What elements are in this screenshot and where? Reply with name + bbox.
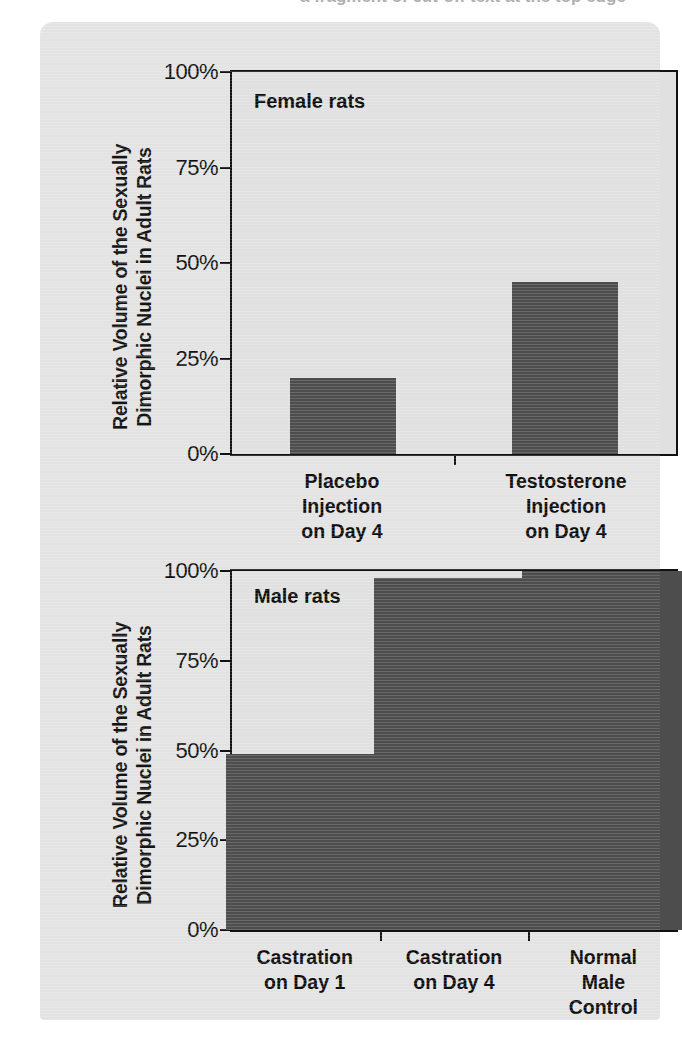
- y-axis-title-line-1: Relative Volume of the Sexually: [108, 622, 132, 908]
- y-axis-title-top-line1: Relative Volume of the SexuallyDimorphic…: [108, 144, 156, 430]
- x-label-0-line-0: Castration: [230, 945, 379, 970]
- x-label-1-line-1: Injection: [454, 494, 678, 519]
- x-label-1-line-0: Testosterone: [454, 469, 678, 494]
- chart-male-rats: Male rats 0%25%50%75%100%: [230, 569, 678, 932]
- x-label-0-line-1: Injection: [230, 494, 454, 519]
- x-divider-2: [528, 930, 530, 941]
- x-label-0-line-1: on Day 1: [230, 970, 379, 995]
- x-label-1-line-1: on Day 4: [379, 970, 528, 995]
- x-label-1: Castrationon Day 4: [379, 945, 528, 1020]
- bar-1: [374, 578, 534, 930]
- x-axis-labels-male: Castrationon Day 1Castrationon Day 4Norm…: [230, 945, 678, 1020]
- bar-1: [512, 282, 619, 454]
- y-tick-0: 0%: [187, 441, 232, 467]
- x-divider-1: [454, 454, 456, 465]
- x-label-0-line-0: Placebo: [230, 469, 454, 494]
- y-axis-title-line-2: Dimorphic Nuclei in Adult Rats: [132, 147, 156, 426]
- y-tick-100: 100%: [164, 558, 232, 584]
- x-label-2-line-0: Normal: [529, 945, 678, 970]
- y-tick-75: 75%: [175, 648, 232, 674]
- x-axis-labels-female: PlaceboInjectionon Day 4TestosteroneInje…: [230, 469, 678, 544]
- clipped-header-label: a fragment of cut-off text at the top ed…: [300, 0, 626, 7]
- x-label-1-line-0: Castration: [379, 945, 528, 970]
- x-divider-1: [380, 930, 382, 941]
- bar-2: [522, 571, 682, 930]
- y-tick-50: 50%: [175, 250, 232, 276]
- y-tick-25: 25%: [175, 346, 232, 372]
- panel-label-male: Male rats: [254, 585, 341, 608]
- y-tick-50: 50%: [175, 738, 232, 764]
- x-label-0-line-2: on Day 4: [230, 519, 454, 544]
- x-label-1-line-2: on Day 4: [454, 519, 678, 544]
- x-label-1: TestosteroneInjectionon Day 4: [454, 469, 678, 544]
- plot-area-male: Male rats 0%25%50%75%100%: [232, 571, 676, 930]
- x-label-0: PlaceboInjectionon Day 4: [230, 469, 454, 544]
- panel-label-female: Female rats: [254, 90, 365, 113]
- y-tick-75: 75%: [175, 155, 232, 181]
- x-label-2-line-1: Male: [529, 970, 678, 995]
- chart-female-rats: Female rats 0%25%50%75%100%: [230, 70, 678, 456]
- bar-0: [290, 378, 397, 454]
- y-tick-100: 100%: [164, 59, 232, 85]
- y-tick-25: 25%: [175, 827, 232, 853]
- figure-card: Relative Volume of the SexuallyDimorphic…: [40, 22, 660, 1020]
- y-axis-title-line-2: Dimorphic Nuclei in Adult Rats: [132, 625, 156, 904]
- plot-area-female: Female rats 0%25%50%75%100%: [232, 72, 676, 454]
- x-label-0: Castrationon Day 1: [230, 945, 379, 1020]
- bar-0: [226, 754, 386, 930]
- y-axis-title-bottom-line1: Relative Volume of the SexuallyDimorphic…: [108, 622, 156, 908]
- x-label-2-line-2: Control: [529, 995, 678, 1020]
- clipped-header-text: a fragment of cut-off text at the top ed…: [0, 0, 677, 16]
- y-axis-title-line-1: Relative Volume of the Sexually: [108, 144, 132, 430]
- x-label-2: NormalMaleControl: [529, 945, 678, 1020]
